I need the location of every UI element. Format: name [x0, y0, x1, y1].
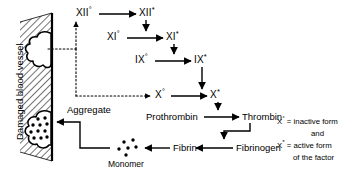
node-factor-x-active-text: X [210, 89, 217, 100]
node-factor-x-inactive-text: X [155, 89, 162, 100]
coagulation-cascade-figure: Damaged blood vessel XII° XII* XI° XI* I… [0, 0, 358, 174]
node-factor-xi-inactive-text: XI [107, 31, 117, 42]
node-fibrinogen: Fibrinogen [236, 143, 281, 153]
node-factor-xii-active-text: XII [139, 7, 152, 18]
node-factor-ix-active: IX* [194, 55, 207, 65]
node-fibrin: Fibrin [173, 143, 197, 153]
superscript-active: * [176, 29, 179, 38]
node-factor-ix-inactive: IX° [135, 55, 148, 65]
superscript-inactive: ° [282, 114, 284, 121]
node-factor-xii-active: XII* [139, 8, 155, 18]
superscript-inactive: ° [117, 29, 120, 38]
node-factor-xii-inactive-text: XII [76, 7, 89, 18]
node-monomer-label: Monomer [108, 160, 144, 169]
legend-active-line: X* = active form [277, 142, 332, 150]
node-factor-xi-active: XI* [166, 32, 179, 42]
node-factor-ix-active-text: IX [194, 54, 204, 65]
legend-and-line: and [311, 130, 324, 138]
node-factor-xi-inactive: XI° [107, 32, 120, 42]
arrow-monomer-to-aggregate [57, 122, 110, 148]
superscript-inactive: ° [162, 87, 165, 96]
node-factor-x-active: X* [210, 90, 220, 100]
superscript-active: * [217, 87, 220, 96]
superscript-active: * [152, 5, 155, 14]
node-aggregate-label: Aggregate [67, 105, 111, 115]
superscript-inactive: ° [145, 52, 148, 61]
node-factor-ix-inactive-text: IX [135, 54, 145, 65]
superscript-inactive: ° [89, 5, 92, 14]
fibrin-monomer-dots [117, 138, 137, 156]
legend-inactive-line: X° = inactive form [277, 118, 338, 126]
node-prothrombin: Prothrombin [146, 112, 198, 122]
superscript-active: * [204, 52, 207, 61]
legend-active-text: = active form [287, 141, 332, 150]
node-factor-xii-inactive: XII° [76, 8, 92, 18]
thrombin-catalyzes-fibrinogen-arrow [224, 123, 250, 139]
damaged-blood-vessel-label: Damaged blood vessel [14, 43, 25, 140]
superscript-active: * [282, 138, 284, 145]
node-factor-xi-active-text: XI [166, 31, 176, 42]
legend-inactive-text: = inactive form [287, 117, 338, 126]
node-factor-x-inactive: X° [155, 90, 165, 100]
legend-factor-line: of the factor [293, 154, 334, 162]
